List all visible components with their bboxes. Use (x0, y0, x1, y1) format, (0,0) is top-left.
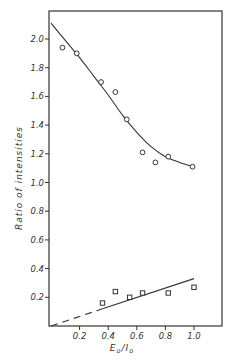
fit-line (51, 23, 194, 167)
y-tick-label: 0.4 (30, 264, 44, 274)
square-marker (113, 289, 117, 293)
chart: 0.20.40.60.81.01.21.41.61.82.0 0.20.40.6… (0, 0, 232, 361)
circle-marker (74, 51, 79, 56)
x-tick-label: 1.0 (187, 331, 201, 341)
y-axis-ticks: 0.20.40.60.81.01.21.41.61.82.0 (30, 34, 49, 302)
fit-lines (51, 23, 194, 326)
circle-marker (140, 150, 145, 155)
y-tick-label: 1.2 (30, 149, 44, 159)
x-tick-label: 0.6 (130, 331, 144, 341)
circle-marker (190, 164, 195, 169)
square-marker (192, 285, 196, 289)
square-marker (100, 301, 104, 305)
x-tick-label: 0.8 (159, 331, 173, 341)
data-points (60, 45, 196, 305)
y-tick-label: 0.2 (30, 292, 44, 302)
circle-marker (153, 160, 158, 165)
y-tick-label: 1.0 (30, 178, 44, 188)
circle-marker (99, 80, 104, 85)
x-axis-label: Eo/Io (110, 343, 134, 355)
square-marker (140, 291, 144, 295)
circle-marker (113, 90, 118, 95)
y-tick-label: 1.8 (30, 63, 44, 73)
circle-marker (124, 117, 129, 122)
square-marker (166, 291, 170, 295)
y-tick-label: 0.8 (30, 206, 44, 216)
y-tick-label: 0.6 (30, 235, 44, 245)
circle-marker (60, 45, 65, 50)
x-axis-ticks: 0.20.40.60.81.0 (73, 326, 201, 341)
y-tick-label: 1.6 (30, 91, 44, 101)
y-tick-label: 2.0 (30, 34, 44, 44)
x-tick-label: 0.4 (101, 331, 115, 341)
plot-frame (49, 11, 222, 326)
y-axis-label: Ratio of intensities (14, 126, 24, 230)
circle-marker (166, 154, 171, 159)
y-tick-label: 1.4 (30, 120, 44, 130)
x-tick-label: 0.2 (73, 331, 87, 341)
fit-line (51, 309, 102, 326)
square-marker (127, 295, 131, 299)
